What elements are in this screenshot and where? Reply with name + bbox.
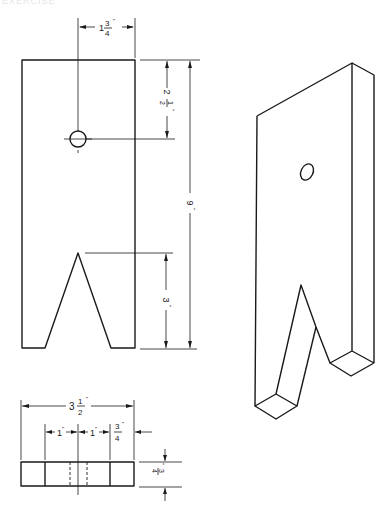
dim-middle-segment: 1 "	[79, 426, 109, 438]
dim-den: 4	[151, 469, 158, 473]
dim-whole: 1	[99, 23, 104, 33]
dim-unit: "	[113, 18, 115, 24]
iso-hole	[298, 162, 316, 182]
dim-unit: "	[122, 421, 124, 427]
dim-unit: "	[62, 426, 64, 432]
top-view: 3 1 2 " 1 " 1 " 3 4 "	[21, 396, 182, 501]
iso-front-face	[255, 63, 352, 406]
dim-thickness: 3 4 "	[151, 449, 167, 501]
iso-right-foot	[330, 351, 374, 376]
dim-unit: "	[95, 426, 97, 432]
dim-overall-width: 3 1 2 "	[22, 396, 133, 417]
dim-value: 9	[185, 200, 195, 205]
dim-unit: "	[86, 396, 88, 402]
dim-den: 2	[159, 101, 166, 105]
dim-notch-depth: 3 "	[161, 254, 172, 348]
dim-value: 3	[161, 297, 171, 302]
dim-num: 1	[167, 101, 174, 105]
dim-unit: "	[159, 463, 165, 465]
dim-den: 2	[78, 408, 83, 417]
iso-side-face	[352, 63, 374, 363]
isometric-view	[255, 63, 374, 419]
front-view: 1 3 4 " 2 1 2 " 9	[22, 18, 200, 349]
dim-num: 3	[115, 422, 120, 431]
dim-den: 4	[115, 434, 120, 443]
front-view-outline	[22, 60, 135, 348]
dim-whole: 2	[162, 89, 172, 94]
iso-left-foot	[255, 394, 297, 419]
dim-overall-height: 9 "	[185, 61, 196, 348]
dim-num: 3	[158, 469, 165, 473]
dim-hole-from-top: 2 1 2 "	[159, 61, 175, 138]
dim-num: 1	[78, 397, 83, 406]
dim-width-to-hole: 1 3 4 "	[79, 18, 134, 38]
dim-unit: "	[166, 305, 172, 307]
dim-num: 3	[105, 19, 110, 28]
dim-left-segment: 1 "	[46, 426, 77, 438]
dim-right-segment: 3 4 "	[114, 421, 152, 443]
dim-den: 4	[105, 29, 110, 38]
dim-unit: "	[169, 109, 175, 111]
dim-whole: 3	[69, 401, 75, 412]
technical-drawing: 1 3 4 " 2 1 2 " 9	[0, 0, 391, 519]
dim-unit: "	[190, 208, 196, 210]
iso-notch-inner	[297, 327, 316, 406]
top-view-outline	[21, 462, 134, 486]
